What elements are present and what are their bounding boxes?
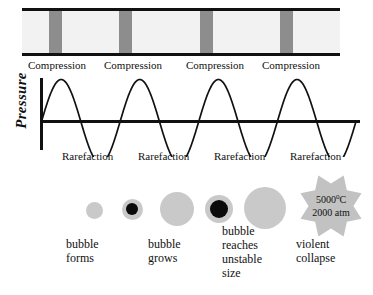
bubble-1 xyxy=(86,202,103,219)
starburst-pressure: 2000 atm xyxy=(312,207,350,220)
bubble-lifecycle-row: 50000C 2000 atm xyxy=(0,170,373,230)
caption-unstable-size: bubble reaches unstable size xyxy=(222,224,262,281)
caption-bubble-forms: bubble forms xyxy=(66,237,99,265)
sound-wave-band xyxy=(22,8,340,56)
rarefaction-label-2: Rarefaction xyxy=(138,150,189,162)
caption-line: forms xyxy=(66,251,99,265)
rarefaction-label-3: Rarefaction xyxy=(214,150,265,162)
caption-line: collapse xyxy=(296,251,335,265)
caption-line: bubble xyxy=(148,237,181,251)
caption-line: violent xyxy=(296,237,335,251)
caption-line: grows xyxy=(148,251,181,265)
pressure-wave-plot: Pressure xyxy=(0,62,373,157)
caption-line: bubble xyxy=(222,224,262,238)
compression-band-3 xyxy=(200,11,213,53)
starburst-temperature-value: 5000 xyxy=(316,194,336,205)
acoustic-pressure-sine-curve xyxy=(0,62,373,157)
bubble-4-core xyxy=(210,200,228,218)
collapse-starburst: 50000C 2000 atm xyxy=(295,173,367,239)
caption-violent-collapse: violent collapse xyxy=(296,237,335,265)
compression-band-4 xyxy=(280,11,293,53)
degree-symbol: 0 xyxy=(336,193,340,201)
starburst-conditions: 50000C 2000 atm xyxy=(295,173,367,239)
bubble-2-core xyxy=(126,203,138,215)
bubble-5 xyxy=(244,187,286,229)
caption-bubble-grows: bubble grows xyxy=(148,237,181,265)
caption-line: bubble xyxy=(66,237,99,251)
bubble-3 xyxy=(160,192,194,226)
starburst-temperature: 50000C xyxy=(316,193,346,207)
bubble-4 xyxy=(205,195,233,223)
figure-canvas: Compression Compression Compression Comp… xyxy=(0,0,373,295)
compression-band-2 xyxy=(119,11,132,53)
caption-line: size xyxy=(222,266,262,280)
band-bottom-rule xyxy=(22,53,340,56)
band-medium-field xyxy=(22,11,340,53)
bubble-2 xyxy=(122,199,143,220)
caption-line: reaches xyxy=(222,238,262,252)
rarefaction-label-1: Rarefaction xyxy=(62,150,113,162)
rarefaction-label-4: Rarefaction xyxy=(290,150,341,162)
caption-line: unstable xyxy=(222,252,262,266)
compression-band-1 xyxy=(49,11,62,53)
